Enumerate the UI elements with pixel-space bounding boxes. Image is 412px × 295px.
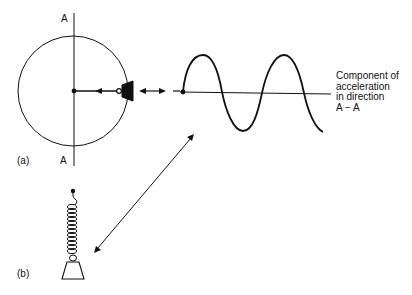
arrowhead-left-icon: [139, 88, 146, 94]
pivot-ring: [117, 89, 122, 94]
centripetal-arrow-icon: [95, 88, 102, 94]
axis-label-top: A: [61, 13, 68, 24]
weight-ring: [70, 255, 77, 261]
time-axis: [180, 92, 331, 94]
part-a-label: (a): [17, 155, 29, 166]
rotating-mass: [122, 81, 133, 101]
acceleration-wave: [180, 55, 331, 132]
weight: [62, 262, 84, 279]
arrowhead-right-icon: [159, 88, 166, 94]
caption-line: in direction: [336, 92, 399, 103]
spring-coils: [68, 204, 77, 253]
diagram-canvas: [0, 0, 412, 295]
caption-line: A − A: [336, 103, 399, 114]
wave-caption: Component of acceleration in direction A…: [336, 71, 399, 113]
arrowhead-down-icon: [94, 246, 101, 253]
axis-label-bottom: A: [60, 155, 67, 166]
part-b-label: (b): [17, 268, 29, 279]
circular-motion-diagram: [18, 13, 180, 166]
wave-start-dot: [181, 90, 186, 95]
arrowhead-up-icon: [187, 134, 194, 141]
correspondence-arrow: [94, 134, 194, 253]
caption-line: Component of: [336, 71, 399, 82]
center-dot: [72, 89, 77, 94]
spring-mass-diagram: [62, 189, 84, 279]
